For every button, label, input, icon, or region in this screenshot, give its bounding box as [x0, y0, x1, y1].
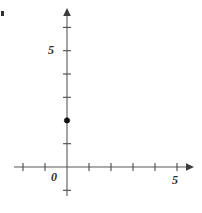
origin-label: 0	[51, 171, 57, 183]
data-points-group	[64, 118, 69, 123]
y-axis-arrow-icon	[63, 8, 71, 16]
plotted-point	[64, 118, 69, 123]
coordinate-plane-figure: 5 0 5	[0, 0, 202, 213]
x-axis-tick-label-5: 5	[172, 174, 178, 186]
x-axis-group	[14, 163, 194, 171]
y-axis-group	[63, 8, 71, 196]
y-axis-tick-label-5: 5	[48, 44, 54, 56]
x-axis-arrow-icon	[186, 163, 194, 171]
